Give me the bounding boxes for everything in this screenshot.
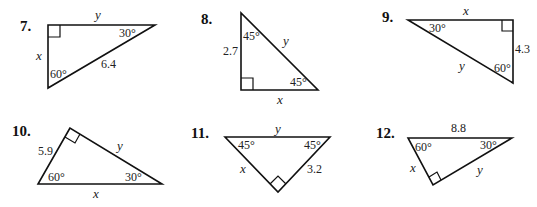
problem-number: 7. — [20, 18, 32, 34]
problem-number: 11. — [191, 125, 209, 141]
side-label-top: y — [93, 7, 101, 22]
right-angle-marker — [48, 25, 60, 37]
angle-label: 60° — [48, 170, 65, 184]
angle-label: 30° — [429, 21, 446, 35]
side-label-right: 4.3 — [515, 42, 530, 56]
side-label-left: 2.7 — [223, 44, 238, 58]
problem-number: 9. — [382, 9, 394, 25]
angle-label: 30° — [125, 170, 142, 184]
angle-label: 60° — [415, 140, 432, 154]
side-label-right: y — [475, 162, 483, 177]
side-label-left: x — [239, 161, 246, 176]
hypotenuse-label: y — [115, 138, 123, 153]
angle-label: 45° — [304, 138, 321, 152]
right-angle-marker — [65, 134, 80, 143]
angle-label: 30° — [480, 138, 497, 152]
problem-11: 11. y x 3.2 45° 45° — [191, 121, 330, 192]
side-label-bottom: x — [92, 186, 99, 201]
side-label-left: x — [35, 48, 42, 63]
hypotenuse-label: 6.4 — [101, 57, 116, 71]
problem-10: 10. 5.9 y x 60° 30° — [12, 123, 162, 201]
side-label-left: 5.9 — [38, 144, 53, 158]
right-angle-marker — [502, 20, 513, 31]
side-label-bottom: x — [276, 92, 283, 107]
problem-12: 12. 8.8 x y 60° 30° — [376, 121, 512, 185]
triangle-exercise-sheet: 7. y x 6.4 30° 60° 8. 2.7 y x 45° 45° 9.… — [0, 0, 537, 207]
problem-number: 12. — [376, 125, 395, 141]
angle-label: 30° — [119, 26, 136, 40]
side-label-right: 3.2 — [307, 162, 322, 176]
side-label-left: x — [409, 160, 416, 175]
problem-8: 8. 2.7 y x 45° 45° — [201, 11, 318, 107]
problem-number: 8. — [201, 11, 213, 27]
problem-number: 10. — [12, 123, 31, 139]
angle-label: 45° — [238, 138, 255, 152]
side-label-top: x — [462, 3, 469, 18]
angle-label: 60° — [494, 61, 511, 75]
side-label-top: y — [273, 121, 281, 136]
hypotenuse-label: y — [457, 58, 465, 73]
angle-label: 60° — [50, 67, 67, 81]
problem-9: 9. x 4.3 y 30° 60° — [382, 3, 530, 83]
hypotenuse-label: y — [281, 33, 289, 48]
side-label-top: 8.8 — [451, 121, 466, 135]
right-angle-marker — [241, 78, 253, 90]
right-angle-marker — [429, 172, 441, 180]
angle-label: 45° — [290, 75, 307, 89]
angle-label: 45° — [243, 29, 260, 43]
right-angle-marker — [270, 176, 286, 184]
problem-7: 7. y x 6.4 30° 60° — [20, 7, 155, 88]
